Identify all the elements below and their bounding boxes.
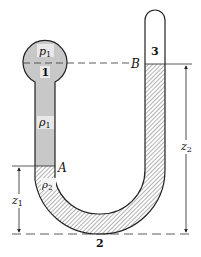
manometer-diagram: p1 1 ρ1 A ρ2 B 3 2 z1 z2 bbox=[0, 0, 201, 257]
point-1-label: 1 bbox=[42, 66, 50, 79]
point-B-label: B bbox=[130, 57, 140, 71]
fluid-1-region bbox=[23, 40, 67, 166]
point-2-label: 2 bbox=[96, 237, 104, 250]
point-3-label: 3 bbox=[151, 45, 159, 58]
point-A-label: A bbox=[57, 161, 67, 175]
